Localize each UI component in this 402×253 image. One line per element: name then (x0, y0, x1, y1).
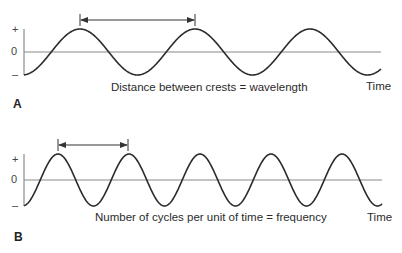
panel-a-y-tick-plus: + (12, 24, 18, 35)
panel-a-caption: Distance between crests = wavelength (111, 82, 308, 94)
panel-a-label: A (13, 98, 22, 110)
panel-b-caption: Number of cycles per unit of time = freq… (95, 212, 327, 224)
panel-b-y-tick-zero: 0 (11, 174, 17, 185)
panel-b-frequency (24, 139, 382, 206)
panel-a-x-axis-label: Time (366, 81, 391, 93)
panel-a-y-tick-zero: 0 (11, 46, 17, 57)
panel-a-wavelength (24, 14, 381, 75)
panel-b-y-tick-minus: – (12, 200, 18, 211)
panel-b-label: B (14, 231, 23, 243)
panel-b-x-axis-label: Time (367, 212, 392, 224)
panel-b-y-tick-plus: + (12, 154, 18, 165)
panel-a-y-tick-minus: – (12, 69, 18, 80)
